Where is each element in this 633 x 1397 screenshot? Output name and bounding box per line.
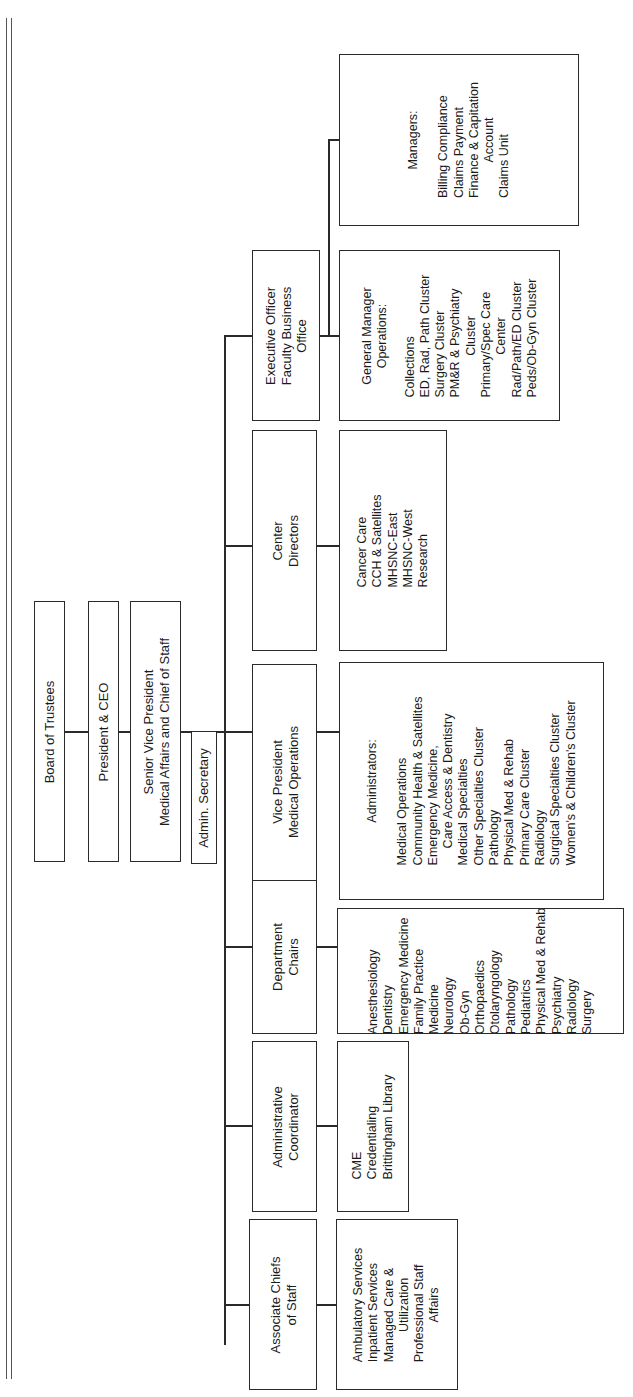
admin-secretary-box: Admin. Secretary	[191, 731, 217, 864]
list-item: Account	[482, 82, 497, 198]
admin-coordinator-list-box: CME Credentialing Brittingham Library	[337, 1041, 409, 1212]
vp-administrators-box: Administrators: Medical Operations Commu…	[339, 662, 604, 900]
link-exec-managers	[328, 139, 339, 141]
vp-administrators-list: Administrators: Medical Operations Commu…	[365, 697, 579, 866]
list-item: Center	[494, 274, 509, 397]
list-item: ED, Rad, Path Cluster	[417, 274, 432, 397]
admin-coordinator-list: CME Credentialing Brittingham Library	[350, 1074, 396, 1179]
list-item: Family Practice	[412, 908, 427, 1034]
list-item: Primary/Spec Care	[478, 274, 493, 397]
connector-president-svp	[118, 731, 130, 733]
branch-dept-chairs	[224, 946, 252, 948]
link-exec-managers-vertical	[328, 139, 330, 335]
title-line: Faculty Business	[278, 286, 294, 384]
list-item: Research	[416, 494, 431, 587]
list-header: General Manager Operations:	[359, 274, 390, 397]
list-item: Medical Specialties	[456, 697, 471, 866]
title-line: Directors	[285, 514, 301, 566]
list-item: Peds/Ob-Gyn Cluster	[524, 274, 539, 397]
link-chairs-list	[316, 946, 339, 948]
admin-coordinator-label: Administrative Coordinator	[269, 1086, 300, 1168]
svp-label: Senior Vice President Medical Affairs an…	[140, 637, 171, 825]
general-manager-list: General Manager Operations: Collections …	[359, 274, 539, 397]
center-directors-label: Center Directors	[269, 514, 300, 566]
list-item: Credentialing	[365, 1074, 380, 1179]
branch-vp-medical	[224, 731, 252, 733]
associate-chiefs-list-box: Ambulatory Services Inpatient Services M…	[336, 1219, 458, 1390]
branch-assoc-chiefs	[224, 1304, 252, 1306]
center-directors-box: Center Directors	[252, 430, 317, 651]
list-item: Claims Payment	[451, 82, 466, 198]
department-chairs-list-box: Anesthesiology Dentistry Emergency Medic…	[337, 908, 624, 1034]
title-line: Medical Operations	[285, 726, 301, 838]
list-item: Surgery	[580, 908, 595, 1034]
link-center-list	[316, 545, 339, 547]
list-item: Surgical Specialties Cluster	[548, 697, 563, 866]
list-item: Claims Unit	[497, 82, 512, 198]
center-directors-list: Cancer Care CCH & Satellites MHSNC-East …	[355, 494, 431, 587]
branch-exec-officer	[224, 335, 252, 337]
list-item: MHSNC-East	[385, 494, 400, 587]
list-item: PM&R & Psychiatry	[448, 274, 463, 397]
branch-center-directors	[224, 545, 252, 547]
board-of-trustees-label: Board of Trustees	[42, 680, 58, 783]
page-border-left-outer	[6, 18, 7, 1379]
list-item: Radiology	[565, 908, 580, 1034]
list-item: Managed Care &	[382, 1247, 397, 1362]
title-line: Administrative	[269, 1086, 285, 1168]
list-item: Other Specialties Cluster	[471, 697, 486, 866]
list-item: Rad/Path/ED Cluster	[509, 274, 524, 397]
list-item: MHSNC-West	[401, 494, 416, 587]
vp-medical-ops-label: Vice President Medical Operations	[269, 726, 300, 838]
list-item: Dentistry	[381, 908, 396, 1034]
header-line: Operations:	[375, 274, 390, 397]
list-header: Managers:	[406, 82, 421, 198]
link-coord-list	[316, 1125, 339, 1127]
list-item: Utilization	[397, 1247, 412, 1362]
title-line: Executive Officer	[263, 286, 279, 384]
title-line: Associate Chiefs	[268, 1256, 284, 1353]
list-item: CCH & Satellites	[370, 494, 385, 587]
list-item: Affairs	[428, 1247, 443, 1362]
list-item: Finance & Capitation	[467, 82, 482, 198]
president-ceo-label: President & CEO	[96, 682, 112, 781]
list-item: Neurology	[442, 908, 457, 1034]
list-item: Ambulatory Services	[351, 1247, 366, 1362]
branch-admin-coord	[224, 1125, 252, 1127]
title-line: of Staff	[283, 1256, 299, 1353]
svp-line-2: Medical Affairs and Chief of Staff	[156, 637, 172, 825]
managers-list: Managers: Billing Compliance Claims Paym…	[406, 82, 513, 198]
list-item: Anesthesiology	[366, 908, 381, 1034]
link-vp-list	[316, 731, 339, 733]
trunk-line	[224, 335, 226, 1345]
list-item: Ob-Gyn	[458, 908, 473, 1034]
header-line: General Manager	[359, 274, 374, 397]
link-exec-gm	[320, 335, 339, 337]
page-border-left-inner	[11, 18, 12, 1379]
title-line: Chairs	[285, 923, 301, 991]
list-item: Medical Operations	[395, 697, 410, 866]
connector-board-president	[64, 731, 88, 733]
list-item: Psychiatry	[549, 908, 564, 1034]
list-item: Women's & Children's Cluster	[563, 697, 578, 866]
managers-box: Managers: Billing Compliance Claims Paym…	[339, 54, 579, 226]
list-item: Physical Med & Rehab	[534, 908, 549, 1034]
list-item: Collections	[402, 274, 417, 397]
title-line: Office	[294, 286, 310, 384]
list-item: Primary Care Cluster	[517, 697, 532, 866]
list-item: Surgery Cluster	[433, 274, 448, 397]
list-item: Pathology	[503, 908, 518, 1034]
associate-chiefs-list: Ambulatory Services Inpatient Services M…	[351, 1247, 443, 1362]
list-item: Billing Compliance	[436, 82, 451, 198]
list-item: Brittingham Library	[381, 1074, 396, 1179]
list-item: Emergency Medicine,	[425, 697, 440, 866]
board-of-trustees-box: Board of Trustees	[34, 601, 65, 862]
list-item: Professional Staff	[412, 1247, 427, 1362]
exec-officer-label: Executive Officer Faculty Business Offic…	[263, 286, 310, 384]
list-item: Cancer Care	[355, 494, 370, 587]
exec-officer-box: Executive Officer Faculty Business Offic…	[252, 250, 320, 421]
associate-chiefs-label: Associate Chiefs of Staff	[268, 1256, 299, 1353]
list-item: Pathology	[487, 697, 502, 866]
list-item: Physical Med & Rehab	[502, 697, 517, 866]
admin-secretary-label: Admin. Secretary	[196, 748, 212, 848]
